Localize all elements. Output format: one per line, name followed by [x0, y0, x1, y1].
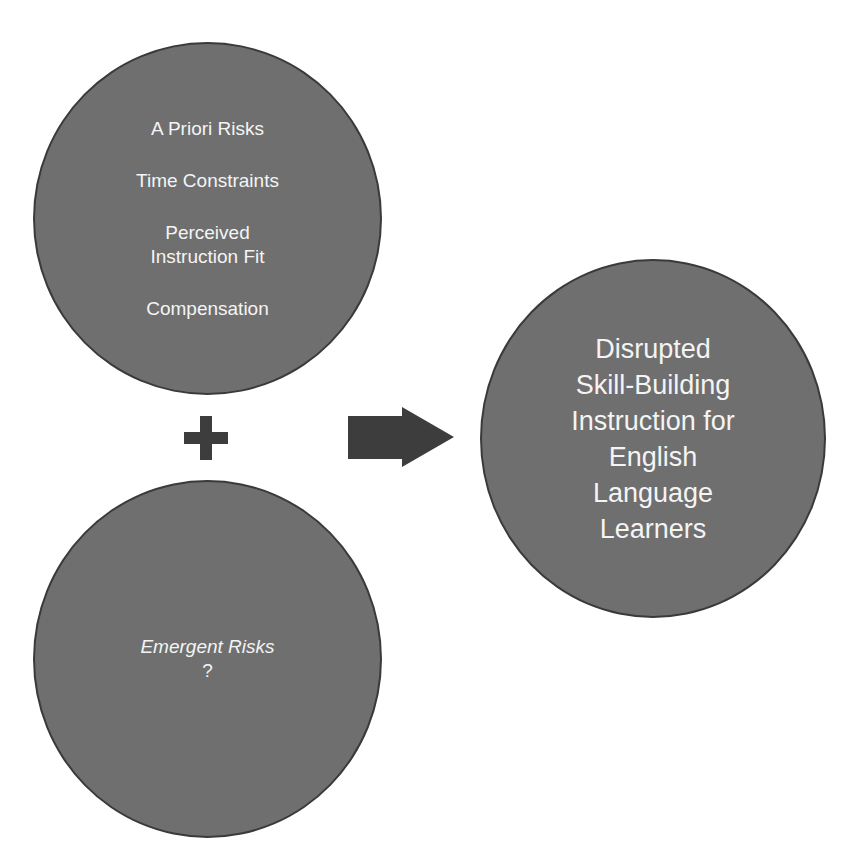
outcome-line: English	[609, 439, 698, 475]
perceived-instruction-fit-label: Perceived Instruction Fit	[150, 221, 264, 269]
perceived-line-1: Perceived	[165, 222, 250, 243]
a-priori-risks-circle: A Priori Risks Time Constraints Perceive…	[33, 42, 382, 395]
outcome-line: Skill-Building	[576, 367, 731, 403]
arrow-right-icon	[348, 406, 456, 468]
plus-icon	[184, 416, 228, 460]
outcome-line: Disrupted	[595, 331, 711, 367]
time-constraints-label: Time Constraints	[136, 169, 279, 193]
outcome-line: Language	[593, 475, 713, 511]
emergent-risks-circle: Emergent Risks ?	[33, 480, 382, 838]
a-priori-risks-label: A Priori Risks	[151, 117, 264, 141]
outcome-line: Instruction for	[571, 403, 735, 439]
outcome-circle: Disrupted Skill-Building Instruction for…	[480, 259, 826, 618]
unknown-question-mark: ?	[202, 659, 213, 683]
emergent-risks-label: Emergent Risks	[140, 635, 274, 659]
outcome-line: Learners	[600, 511, 707, 547]
perceived-line-2: Instruction Fit	[150, 246, 264, 267]
compensation-label: Compensation	[146, 297, 269, 321]
